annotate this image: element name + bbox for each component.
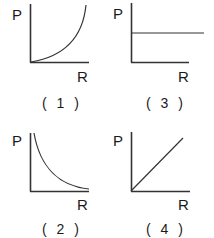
- panel-1-graph: [30, 4, 89, 63]
- panel-2-y-label: P: [12, 133, 22, 148]
- panel-1-y-label: P: [12, 7, 22, 22]
- panel-1-curve: [31, 5, 86, 62]
- panel-3-x-label: R: [178, 69, 189, 84]
- panel-2-caption: ( 2 ): [42, 222, 82, 236]
- panel-2-graph: [30, 133, 89, 192]
- panel-2-curve: [34, 133, 89, 189]
- panel-3-graph: [131, 3, 204, 63]
- panel-4-line: [131, 138, 183, 191]
- panel-3-caption: ( 3 ): [146, 96, 186, 110]
- panel-4-x-label: R: [178, 197, 189, 212]
- panel-3-y-label: P: [113, 6, 123, 21]
- panel-4-y-label: P: [113, 133, 123, 148]
- panel-1-caption: ( 1 ): [42, 96, 82, 110]
- panel-1-x-label: R: [77, 69, 88, 84]
- panel-4-graph: [131, 132, 190, 192]
- panel-2-x-label: R: [77, 197, 88, 212]
- panel-4-caption: ( 4 ): [146, 222, 186, 236]
